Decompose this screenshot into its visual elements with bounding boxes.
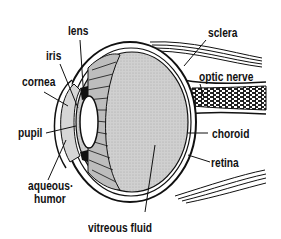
label-optic-nerve: optic nerve	[199, 71, 253, 83]
label-pupil: pupil	[18, 127, 42, 139]
lower-muscle	[175, 170, 266, 203]
label-aqueous-humor-2: humor	[34, 193, 66, 205]
label-vitreous-fluid: vitreous fluid	[88, 222, 152, 234]
label-lens: lens	[68, 25, 88, 37]
label-iris: iris	[46, 50, 61, 62]
lens-shape	[80, 96, 98, 148]
label-cornea: cornea	[22, 76, 55, 88]
label-aqueous-humor-1: aqueous·	[28, 180, 73, 192]
label-retina: retina	[211, 157, 239, 169]
label-sclera: sclera	[208, 27, 237, 39]
label-choroid: choroid	[212, 128, 249, 140]
